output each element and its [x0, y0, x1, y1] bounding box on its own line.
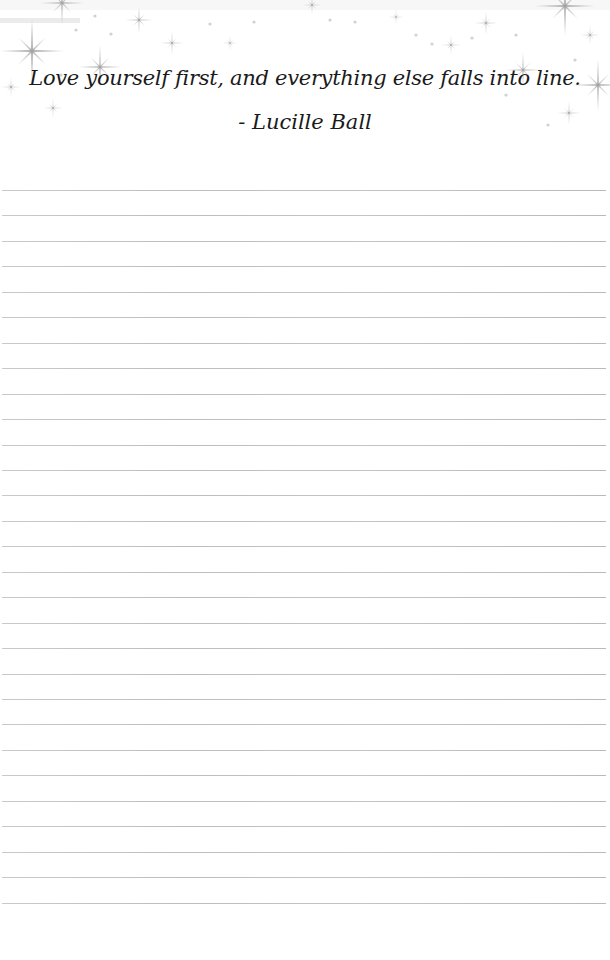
writing-line	[2, 394, 606, 395]
writing-line	[2, 470, 606, 471]
writing-line	[2, 750, 606, 751]
writing-line	[2, 495, 606, 496]
writing-line	[2, 317, 606, 318]
quote-block: Love yourself first, and everything else…	[0, 60, 610, 140]
writing-line	[2, 648, 606, 649]
writing-line	[2, 623, 606, 624]
writing-line	[2, 343, 606, 344]
writing-line	[2, 572, 606, 573]
writing-line	[2, 724, 606, 725]
writing-line	[2, 266, 606, 267]
writing-line	[2, 801, 606, 802]
writing-line	[2, 597, 606, 598]
writing-line	[2, 775, 606, 776]
writing-line	[2, 292, 606, 293]
writing-line	[2, 190, 606, 191]
writing-line	[2, 877, 606, 878]
writing-line	[2, 241, 606, 242]
writing-line	[2, 521, 606, 522]
quote-author: - Lucille Ball	[0, 104, 610, 140]
writing-line	[2, 368, 606, 369]
writing-line	[2, 903, 606, 904]
quote-text: Love yourself first, and everything else…	[0, 60, 610, 96]
writing-line	[2, 699, 606, 700]
writing-line	[2, 852, 606, 853]
writing-line	[2, 546, 606, 547]
writing-line	[2, 419, 606, 420]
lined-notebook-page: Love yourself first, and everything else…	[0, 0, 610, 960]
writing-line	[2, 215, 606, 216]
writing-line	[2, 826, 606, 827]
writing-line	[2, 445, 606, 446]
writing-line	[2, 674, 606, 675]
